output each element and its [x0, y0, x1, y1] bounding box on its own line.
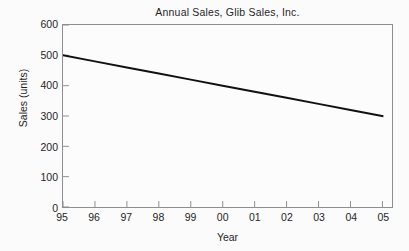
- plot-svg: [63, 25, 392, 207]
- x-axis-tick-label: 01: [240, 212, 270, 223]
- y-axis-tick-label: 300: [18, 111, 58, 122]
- y-axis-tick-label: 400: [18, 80, 58, 91]
- x-axis-tick-label: 05: [368, 212, 398, 223]
- x-axis-tick-label: 03: [304, 212, 334, 223]
- y-axis-tick-label: 600: [18, 19, 58, 30]
- x-axis-tick-label: 97: [111, 212, 141, 223]
- chart-title: Annual Sales, Glib Sales, Inc.: [62, 6, 393, 18]
- x-axis-tick-label: 98: [143, 212, 173, 223]
- x-axis-tick-label: 96: [79, 212, 109, 223]
- chart-screenshot: Annual Sales, Glib Sales, Inc. Sales (un…: [0, 0, 409, 251]
- y-axis-tick-labels: 0100200300400500600: [10, 24, 58, 208]
- x-axis-tick-label: 04: [336, 212, 366, 223]
- line-chart-figure: Annual Sales, Glib Sales, Inc. Sales (un…: [0, 0, 409, 251]
- plot-area: [62, 24, 393, 208]
- y-axis-tick-label: 100: [18, 172, 58, 183]
- x-axis-tick-label: 00: [208, 212, 238, 223]
- x-axis-tick-label: 02: [272, 212, 302, 223]
- x-axis-title: Year: [62, 231, 393, 243]
- data-series-line: [63, 55, 382, 116]
- y-axis-tick-marks: [63, 25, 69, 207]
- x-axis-tick-label: 95: [47, 212, 77, 223]
- y-axis-tick-label: 200: [18, 142, 58, 153]
- x-axis-tick-marks: [63, 201, 382, 207]
- y-axis-tick-label: 500: [18, 50, 58, 61]
- x-axis-tick-labels: 9596979899000102030405: [62, 212, 393, 228]
- x-axis-tick-label: 99: [176, 212, 206, 223]
